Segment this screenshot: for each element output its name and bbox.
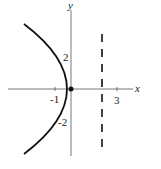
tick-label-neg2: -2 <box>58 116 67 128</box>
focus-point <box>69 87 74 92</box>
parabola-chart: y x -1 3 2 -2 <box>0 0 161 169</box>
tick-label-neg1: -1 <box>50 93 59 105</box>
y-axis-label: y <box>67 0 73 11</box>
tick-label-2: 2 <box>63 51 69 63</box>
x-axis-label: x <box>134 82 140 94</box>
tick-label-3: 3 <box>114 94 120 106</box>
